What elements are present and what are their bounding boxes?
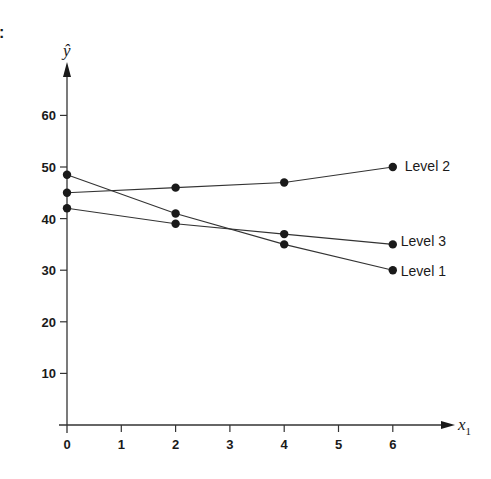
y-tick-label: 50	[42, 160, 56, 175]
x-tick-label: 3	[226, 437, 233, 452]
data-point-marker-icon	[280, 240, 288, 248]
series-line	[67, 208, 393, 244]
data-point-marker-icon	[63, 204, 71, 212]
data-point-marker-icon	[63, 189, 71, 197]
y-axis-label: ŷ	[61, 41, 71, 60]
axis-ticks: 0123456102030405060	[42, 108, 397, 452]
data-point-marker-icon	[389, 266, 397, 274]
data-point-marker-icon	[63, 171, 71, 179]
x-tick-label: 6	[389, 437, 396, 452]
y-tick-label: 40	[42, 212, 56, 227]
interaction-plot: : x1ŷ 0123456102030405060 Level 1Level 2…	[0, 0, 491, 479]
series-lines	[63, 163, 397, 275]
series-line	[67, 167, 393, 193]
x-axis-arrow-icon	[441, 421, 455, 429]
series-label: Level 3	[401, 233, 446, 249]
panel-marker: :	[0, 24, 4, 41]
x-axis-label-subscript: 1	[466, 425, 472, 437]
data-point-marker-icon	[280, 230, 288, 238]
data-point-marker-icon	[280, 178, 288, 186]
x-tick-label: 4	[281, 437, 289, 452]
series-label: Level 1	[401, 263, 446, 279]
y-axis-arrow-icon	[63, 62, 71, 77]
y-tick-label: 30	[42, 263, 56, 278]
data-point-marker-icon	[171, 183, 179, 191]
y-tick-label: 10	[42, 366, 56, 381]
data-point-marker-icon	[389, 240, 397, 248]
y-tick-label: 20	[42, 315, 56, 330]
data-point-marker-icon	[389, 163, 397, 171]
y-tick-label: 60	[42, 108, 56, 123]
x-tick-label: 0	[63, 437, 70, 452]
series-label: Level 2	[405, 158, 450, 174]
x-tick-label: 2	[172, 437, 179, 452]
x-tick-label: 5	[335, 437, 342, 452]
series-labels: Level 1Level 2Level 3	[401, 158, 450, 279]
series-line	[67, 175, 393, 270]
x-tick-label: 1	[118, 437, 125, 452]
data-point-marker-icon	[171, 220, 179, 228]
data-point-marker-icon	[171, 209, 179, 217]
x-axis-label: x1	[457, 415, 471, 437]
